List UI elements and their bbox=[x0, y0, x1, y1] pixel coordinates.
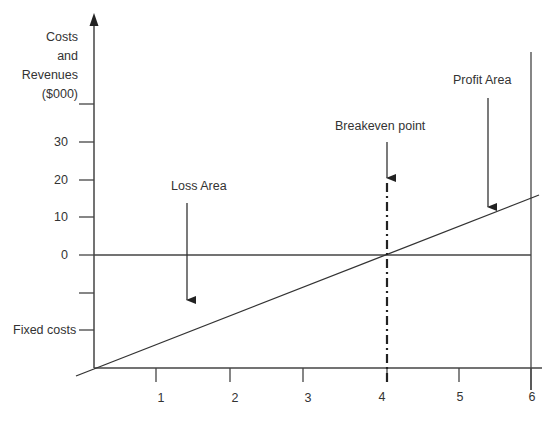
y-tick-label: 20 bbox=[28, 174, 68, 187]
y-axis bbox=[90, 13, 99, 368]
y-tick-label: 30 bbox=[28, 136, 68, 149]
profit-area-label: Profit Area bbox=[453, 74, 511, 87]
x-tick-label: 2 bbox=[225, 392, 245, 405]
breakeven-point-label: Breakeven point bbox=[335, 120, 425, 133]
y-axis-title-line: and bbox=[22, 47, 78, 66]
loss-area-label: Loss Area bbox=[171, 180, 227, 193]
profit-line bbox=[76, 195, 539, 376]
y-tick-label: 0 bbox=[28, 249, 68, 262]
x-tick-label: 4 bbox=[372, 391, 392, 404]
fixed-costs-label: Fixed costs bbox=[13, 324, 76, 337]
y-axis-arrow-icon bbox=[90, 13, 99, 26]
y-tick-label: 10 bbox=[28, 211, 68, 224]
y-axis-title-line: ($000) bbox=[22, 85, 78, 104]
y-axis-title-line: Costs bbox=[22, 28, 78, 47]
y-axis-title-line: Revenues bbox=[22, 66, 78, 85]
x-tick-label: 6 bbox=[522, 391, 542, 404]
x-tick-label: 3 bbox=[298, 392, 318, 405]
x-tick-label: 5 bbox=[450, 391, 470, 404]
x-ticks bbox=[156, 368, 531, 390]
y-ticks bbox=[79, 104, 94, 330]
breakeven-chart-canvas bbox=[0, 0, 555, 423]
y-axis-title: Costs and Revenues ($000) bbox=[22, 28, 78, 104]
x-tick-label: 1 bbox=[151, 392, 171, 405]
